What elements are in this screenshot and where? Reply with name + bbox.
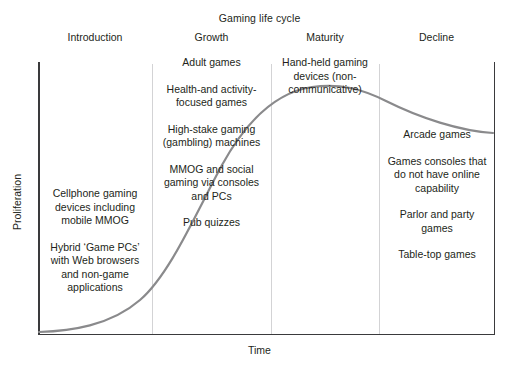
x-axis-title: Time [0, 344, 519, 356]
note-item: MMOG and social gaming via consoles and … [153, 163, 270, 204]
note-item: Parlor and party games [381, 208, 493, 235]
note-item: Hybrid ‘Game PCs’ with Web browsers and … [40, 241, 150, 295]
gaming-life-cycle-figure: Gaming life cycle Introduction Growth Ma… [0, 0, 519, 366]
stage-label-decline: Decline [379, 31, 494, 43]
y-axis-title: Proliferation [11, 157, 23, 247]
note-item: High-stake gaming (gambling) machines [153, 123, 270, 150]
note-item: Adult games [153, 56, 270, 70]
note-item: Table-top games [381, 248, 493, 262]
note-item: Arcade games [381, 128, 493, 142]
right-border-line [494, 62, 496, 335]
note-item: Hand-held gaming devices (non- communica… [272, 56, 378, 97]
stage-label-growth: Growth [152, 31, 271, 43]
notes-maturity: Hand-held gaming devices (non- communica… [272, 56, 378, 97]
notes-decline: Arcade games Games consoles that do not … [381, 128, 493, 262]
note-item: Games consoles that do not have online c… [381, 155, 493, 196]
figure-title: Gaming life cycle [0, 12, 519, 24]
stage-label-maturity: Maturity [271, 31, 379, 43]
stage-divider-growth-maturity [271, 64, 272, 334]
stage-divider-maturity-decline [379, 64, 380, 334]
x-axis-line [38, 334, 495, 336]
note-item: Health-and activity- focused games [153, 83, 270, 110]
notes-growth: Adult games Health-and activity- focused… [153, 56, 270, 230]
note-item: Pub quizzes [153, 216, 270, 230]
notes-introduction: Cellphone gaming devices including mobil… [40, 187, 150, 295]
stage-label-introduction: Introduction [38, 31, 152, 43]
note-item: Cellphone gaming devices including mobil… [40, 187, 150, 228]
